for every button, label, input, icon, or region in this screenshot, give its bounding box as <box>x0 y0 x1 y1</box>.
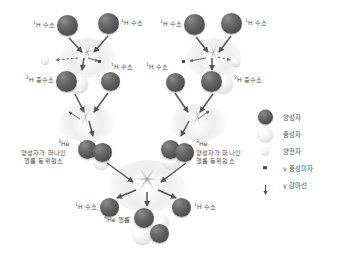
arrow-left-deuterium-in <box>75 94 84 112</box>
right-step1-proton-b <box>221 13 242 34</box>
arrow-right-positron-out <box>218 57 230 60</box>
arrow-right-proton-in <box>175 93 188 112</box>
final-burst-ray-b <box>139 168 155 190</box>
right-burst-1-ray-a <box>209 41 218 62</box>
legend-row-gamma: γ 감마선 <box>258 176 344 193</box>
left-positron <box>41 56 49 64</box>
arrow-left-gamma-out <box>69 112 80 119</box>
left-step2-proton <box>101 72 120 91</box>
arrow-left-p2-in <box>94 36 108 52</box>
left-step1-proton-a <box>57 15 78 36</box>
right-positron <box>232 58 240 66</box>
right-he3-desc-line2: 헬륨 동위원소 <box>196 157 235 164</box>
left-step2-proton-label: 1H 수소 <box>111 63 133 71</box>
legend-label-positron: 양전자 <box>283 146 301 155</box>
left-deuterium-label-text: H 중수소 <box>29 76 54 83</box>
gamma-arrow-icon <box>261 180 270 190</box>
right-burst-1-ray-c <box>206 49 222 55</box>
arrow-right-gamma-out <box>198 111 209 119</box>
left-step1-left-label: 1H 수소 <box>14 21 55 29</box>
right-he3-symbol-text: He <box>199 140 208 147</box>
final-left-label-text: H 수소 <box>78 203 97 210</box>
right-burst-2-ray-a <box>193 108 203 127</box>
arrow-final-proton-left-out <box>117 190 136 198</box>
right-step1-right-label-text: H 수소 <box>248 19 267 26</box>
legend-label-neutrino: ν 중성미자 <box>283 163 313 172</box>
legend-row-neutron: 중성자 <box>258 125 344 142</box>
arrow-left-p1-in <box>69 38 82 52</box>
left-he3-desc: 양성자가 하나인 헬륨 동위원소 <box>11 149 76 164</box>
left-step2-proton-label-text: H 수소 <box>114 63 133 70</box>
left-burst-2-ray-a <box>80 108 91 126</box>
left-step1-left-label-text: H 수소 <box>36 21 55 28</box>
arrow-final-proton-right-out <box>158 190 176 198</box>
right-neutrino <box>182 60 185 63</box>
left-he3-proton-b <box>93 143 112 162</box>
he4-proton-b <box>150 224 169 243</box>
left-burst-2-ray-b <box>83 107 89 127</box>
right-step2-proton-label-text: H 수소 <box>149 63 168 70</box>
right-step1-left-label-text: H 수소 <box>163 20 182 27</box>
final-left-label: 1H 수소 <box>57 203 97 211</box>
arrow-left-he3-out <box>89 121 93 136</box>
final-right-label-text: H 수소 <box>197 203 216 210</box>
left-burst-1-ray-b <box>84 41 92 62</box>
arrow-left-positron-out <box>56 58 78 60</box>
left-burst-1-ray-c <box>80 49 96 55</box>
right-he3-desc-line1: 양성자가 하나인 <box>196 149 241 156</box>
right-he3-proton-b <box>175 143 194 162</box>
final-burst-ray-a <box>139 168 155 190</box>
right-step2-proton-label: 1H 수소 <box>132 63 168 71</box>
left-step1-proton-b <box>98 13 119 34</box>
legend-label-neutron: 중성자 <box>283 129 301 138</box>
final-right-label: 1H 수소 <box>194 203 216 211</box>
arrow-right-p1-in <box>196 37 208 52</box>
left-he3-desc-line1: 양성자가 하나인 <box>21 149 66 156</box>
final-released-proton-left <box>100 198 119 217</box>
right-step1-proton-a <box>184 14 205 35</box>
he4-label-text: He 헬륨 <box>107 216 130 223</box>
arrow-right-neutrino-out <box>190 58 206 61</box>
left-he3-desc-line2: 헬륨 동위원소 <box>24 157 63 164</box>
right-burst-1-ray-b <box>209 41 218 62</box>
left-he3-symbol: 3He <box>58 140 70 148</box>
arrow-right-p2-in <box>219 36 231 52</box>
arrow-final-left-he3-in <box>107 163 133 182</box>
right-burst-2 <box>170 104 226 142</box>
arrow-right-he3-out <box>181 121 189 136</box>
right-he3-symbol: 3He <box>196 140 208 148</box>
left-step1-right-label: 1H 수소 <box>121 19 143 27</box>
neutrino-dot-icon <box>263 166 267 170</box>
arrow-left-neutrino-out <box>88 58 98 61</box>
legend-label-gamma: γ 감마선 <box>283 180 307 189</box>
left-he3-symbol-text: He <box>61 140 70 147</box>
arrow-right-deuterium-in <box>200 94 213 112</box>
right-step2-proton <box>166 73 185 92</box>
right-burst-2-ray-b <box>194 107 201 127</box>
right-deuterium-label-text: H 중수소 <box>237 76 262 83</box>
left-neutrino <box>98 60 101 63</box>
neutron-sphere-icon <box>258 126 273 141</box>
fusion-diagram: 1H 수소 1H 수소 2H 중수소 1H 수소 3He 양성자가 하나인 헬륨… <box>0 0 347 254</box>
he4-proton-a <box>134 208 154 228</box>
final-burst-ray-c <box>136 178 158 181</box>
legend-row-proton: 양성자 <box>258 108 344 125</box>
arrow-left-deuterium-out <box>82 58 84 70</box>
left-deuterium-proton <box>56 71 77 92</box>
positron-sphere-icon <box>261 147 269 155</box>
legend-row-positron: 양전자 <box>258 142 344 159</box>
right-step1-left-label: 1H 수소 <box>141 20 182 28</box>
right-deuterium-proton <box>201 71 222 92</box>
he4-label: 4He 헬륨 <box>78 216 130 224</box>
legend-label-proton: 양성자 <box>283 112 301 121</box>
arrow-left-proton-in <box>94 93 108 112</box>
final-released-proton-right <box>172 198 191 217</box>
right-step1-right-label: 1H 수소 <box>245 19 267 27</box>
right-deuterium-label: 2H 중수소 <box>234 76 262 84</box>
right-he3-desc: 양성자가 하나인 헬륨 동위원소 <box>196 149 262 164</box>
left-deuterium-label: 2H 중수소 <box>8 76 54 84</box>
left-burst-2 <box>58 104 114 142</box>
left-burst-1-ray-a <box>83 42 93 63</box>
final-burst-ray-d <box>136 178 158 181</box>
legend: 양성자 중성자 양전자 ν 중성미자 γ 감마선 <box>258 108 344 193</box>
